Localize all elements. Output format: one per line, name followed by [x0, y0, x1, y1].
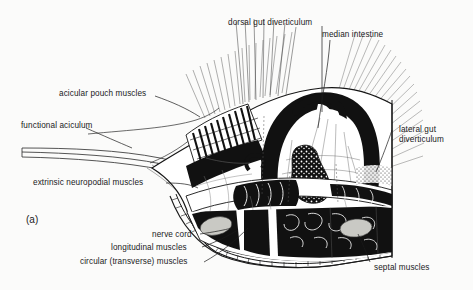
- stipple-patch: [356, 165, 392, 186]
- anatomy-drawing: [0, 0, 473, 290]
- label-median-intestine: median intestine: [322, 30, 383, 40]
- anatomical-figure: dorsal gut diverticulum median intestine…: [0, 0, 473, 290]
- label-circular-transverse-muscles: circular (transverse) muscles: [80, 257, 188, 267]
- label-longitudinal-muscles: longitudinal muscles: [111, 243, 187, 253]
- label-functional-aciculum: functional aciculum: [21, 121, 93, 131]
- label-lateral-gut-diverticulum-line2: diverticulum: [399, 135, 444, 145]
- label-lateral-gut-diverticulum-line1: lateral gut: [399, 125, 436, 135]
- panel-label: (a): [26, 214, 38, 225]
- label-dorsal-gut-diverticulum: dorsal gut diverticulum: [228, 18, 312, 28]
- label-nerve-cord: nerve cord: [152, 230, 192, 240]
- label-acicular-pouch-muscles: acicular pouch muscles: [59, 89, 146, 99]
- label-extrinsic-neuropodial-muscles: extrinsic neuropodial muscles: [33, 178, 143, 188]
- label-septal-muscles: septal muscles: [374, 263, 430, 273]
